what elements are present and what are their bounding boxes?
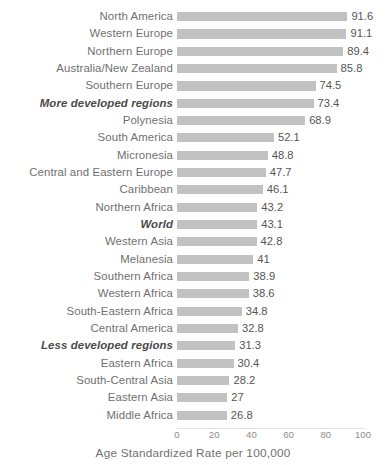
bar <box>177 393 227 402</box>
chart-row: World43.1 <box>0 216 386 233</box>
chart-row: More developed regions73.4 <box>0 95 386 112</box>
category-label: South America <box>98 129 173 146</box>
bar-value-label: 48.8 <box>268 147 294 164</box>
chart-row: Southern Africa38.9 <box>0 268 386 285</box>
bar-track: 52.1 <box>177 129 386 146</box>
category-label: Less developed regions <box>41 337 173 354</box>
bar-track: 42.8 <box>177 233 386 250</box>
chart-row: Less developed regions31.3 <box>0 337 386 354</box>
bar-track: 28.2 <box>177 372 386 389</box>
x-axis-title: Age Standardized Rate per 100,000 <box>0 446 386 460</box>
chart-row: Caribbean46.1 <box>0 181 386 198</box>
category-label: Melanesia <box>120 251 173 268</box>
category-label: Eastern Africa <box>101 355 173 372</box>
bar-track: 30.4 <box>177 355 386 372</box>
bar <box>177 133 274 142</box>
x-axis-tick-label: 0 <box>174 429 179 440</box>
bar-value-label: 42.8 <box>257 233 283 250</box>
bar-track: 91.6 <box>177 8 386 25</box>
chart-row: Micronesia48.8 <box>0 147 386 164</box>
bar-track: 32.8 <box>177 320 386 337</box>
x-axis-tick-label: 40 <box>246 429 257 440</box>
category-label: Southern Africa <box>94 268 173 285</box>
bar <box>177 359 234 368</box>
category-label: Eastern Asia <box>108 389 173 406</box>
bar-track: 31.3 <box>177 337 386 354</box>
chart-row: Melanesia41 <box>0 251 386 268</box>
bar <box>177 411 227 420</box>
category-label: South-Central Asia <box>76 372 173 389</box>
bar-value-label: 27 <box>227 389 243 406</box>
chart-row: Central America32.8 <box>0 320 386 337</box>
bar-track: 68.9 <box>177 112 386 129</box>
bar-value-label: 74.5 <box>316 77 342 94</box>
bar-track: 26.8 <box>177 407 386 424</box>
bar-track: 85.8 <box>177 60 386 77</box>
chart-rows: North America91.6Western Europe91.1North… <box>0 8 386 424</box>
bar-value-label: 28.2 <box>229 372 255 389</box>
bar-value-label: 47.7 <box>266 164 292 181</box>
bar <box>177 255 253 264</box>
bar-value-label: 26.8 <box>227 407 253 424</box>
bar-value-label: 46.1 <box>263 181 289 198</box>
chart-row: Northern Europe89.4 <box>0 43 386 60</box>
chart-row: Northern Africa43.2 <box>0 199 386 216</box>
chart-row: South-Eastern Africa34.8 <box>0 303 386 320</box>
bar-value-label: 52.1 <box>274 129 300 146</box>
chart-row: Western Europe91.1 <box>0 25 386 42</box>
bar-track: 43.1 <box>177 216 386 233</box>
bar <box>177 185 263 194</box>
chart-row: South America52.1 <box>0 129 386 146</box>
x-axis-tick-label: 60 <box>283 429 294 440</box>
bar-value-label: 91.1 <box>346 25 372 42</box>
category-label: Middle Africa <box>106 407 173 424</box>
chart-row: Polynesia68.9 <box>0 112 386 129</box>
bar-value-label: 85.8 <box>337 60 363 77</box>
bar-chart: North America91.6Western Europe91.1North… <box>0 0 386 465</box>
category-label: Northern Africa <box>96 199 173 216</box>
bar <box>177 307 242 316</box>
bar-track: 48.8 <box>177 147 386 164</box>
bar-value-label: 32.8 <box>238 320 264 337</box>
bar-value-label: 30.4 <box>234 355 260 372</box>
bar-value-label: 43.2 <box>257 199 283 216</box>
bar <box>177 168 266 177</box>
bar <box>177 324 238 333</box>
bar <box>177 64 337 73</box>
bar-value-label: 31.3 <box>235 337 261 354</box>
x-axis-tick-label: 100 <box>355 429 371 440</box>
bar-track: 74.5 <box>177 77 386 94</box>
category-label: More developed regions <box>40 95 173 112</box>
x-axis-tick-label: 80 <box>320 429 331 440</box>
bar <box>177 116 305 125</box>
bar-track: 73.4 <box>177 95 386 112</box>
chart-row: Western Africa38.6 <box>0 285 386 302</box>
category-label: Central America <box>90 320 173 337</box>
bar-value-label: 41 <box>253 251 269 268</box>
category-label: Australia/New Zealand <box>56 60 173 77</box>
chart-row: South-Central Asia28.2 <box>0 372 386 389</box>
bar <box>177 29 346 38</box>
bar-track: 27 <box>177 389 386 406</box>
category-label: Western Asia <box>105 233 173 250</box>
bar-value-label: 73.4 <box>314 95 340 112</box>
chart-row: Eastern Asia27 <box>0 389 386 406</box>
category-label: Micronesia <box>117 147 173 164</box>
category-label: Western Europe <box>90 25 174 42</box>
bar-track: 89.4 <box>177 43 386 60</box>
category-label: North America <box>100 8 173 25</box>
bar-track: 41 <box>177 251 386 268</box>
category-label: South-Eastern Africa <box>67 303 173 320</box>
category-label: Northern Europe <box>87 43 173 60</box>
x-axis-tick-label: 20 <box>209 429 220 440</box>
bar <box>177 341 235 350</box>
bar <box>177 81 316 90</box>
chart-row: Middle Africa26.8 <box>0 407 386 424</box>
bar-value-label: 68.9 <box>305 112 331 129</box>
bar-value-label: 38.9 <box>249 268 275 285</box>
chart-row: Western Asia42.8 <box>0 233 386 250</box>
bar-track: 46.1 <box>177 181 386 198</box>
bar <box>177 12 347 21</box>
category-label: Caribbean <box>120 181 173 198</box>
bar-value-label: 89.4 <box>343 43 369 60</box>
